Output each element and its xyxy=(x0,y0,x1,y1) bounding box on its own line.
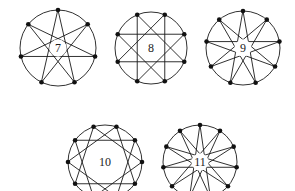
figures-canvas: 7891011 xyxy=(0,0,295,191)
vertex-dot xyxy=(170,184,175,189)
vertex-dot xyxy=(228,80,233,85)
vertex-dot xyxy=(226,184,231,189)
vertex-dot xyxy=(161,165,166,170)
vertex-dot xyxy=(198,123,203,128)
vertex-dot xyxy=(93,54,98,59)
vertex-dot xyxy=(114,125,119,130)
vertex-dot xyxy=(231,144,236,149)
vertex-dot xyxy=(234,165,239,170)
vertex-dot xyxy=(56,8,61,13)
vertex-dot xyxy=(135,12,140,17)
figure-8: 8 xyxy=(115,12,187,84)
vertex-dot xyxy=(26,22,31,27)
vertex-dot xyxy=(133,181,138,186)
vertex-dot xyxy=(182,32,187,37)
vertex-dot xyxy=(217,17,222,22)
figure-9: 9 xyxy=(204,9,281,85)
vertex-dot xyxy=(73,181,78,186)
star-polygon-figure-sheet: 7891011 xyxy=(0,0,295,191)
vertex-dot xyxy=(72,80,77,85)
vertex-dot xyxy=(162,12,167,17)
vertex-dot xyxy=(209,64,214,69)
figure-label: 8 xyxy=(148,41,154,55)
vertex-dot xyxy=(19,54,24,59)
figure-label: 11 xyxy=(194,155,206,169)
vertex-dot xyxy=(182,59,187,64)
vertex-dot xyxy=(241,9,246,14)
vertex-dot xyxy=(73,138,78,143)
vertex-dot xyxy=(218,129,223,134)
vertex-dot xyxy=(273,64,278,69)
vertex-dot xyxy=(277,39,282,44)
figure-label: 7 xyxy=(55,41,61,55)
vertex-dot xyxy=(264,17,269,22)
vertex-dot xyxy=(133,138,138,143)
vertex-dot xyxy=(253,80,258,85)
vertex-dot xyxy=(39,80,44,85)
vertex-dot xyxy=(178,129,183,134)
vertex-dot xyxy=(85,22,90,27)
figure-11: 11 xyxy=(161,123,239,191)
vertex-dot xyxy=(115,59,120,64)
vertex-dot xyxy=(66,160,71,165)
figure-label: 9 xyxy=(240,41,246,55)
vertex-dot xyxy=(91,125,96,130)
vertex-dot xyxy=(164,144,169,149)
figure-label: 10 xyxy=(99,155,111,169)
vertex-dot xyxy=(135,79,140,84)
figure-10: 10 xyxy=(66,125,145,191)
figure-7: 7 xyxy=(19,8,98,86)
vertex-dot xyxy=(140,160,145,165)
vertex-dot xyxy=(115,32,120,37)
vertex-dot xyxy=(204,39,209,44)
vertex-dot xyxy=(162,79,167,84)
